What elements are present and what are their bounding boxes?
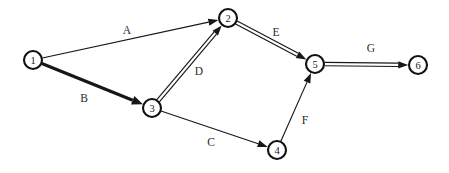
- edge-shaft: [281, 82, 307, 141]
- node-label: 4: [274, 145, 280, 156]
- node-5[interactable]: 5: [306, 55, 324, 73]
- edge-b: [42, 64, 143, 105]
- edge-label-f: F: [302, 114, 308, 126]
- arrowhead-icon: [131, 96, 143, 105]
- edge-label-g: G: [367, 42, 375, 54]
- arrowhead-icon: [304, 73, 311, 84]
- node-4[interactable]: 4: [268, 141, 286, 159]
- nodes-layer: 123456: [24, 9, 427, 159]
- node-label: 3: [149, 103, 154, 114]
- node-6[interactable]: 6: [409, 56, 427, 74]
- node-3[interactable]: 3: [143, 99, 161, 117]
- edge-rail: [325, 62, 399, 63]
- edge-f: [281, 73, 311, 141]
- edge-g: [324, 61, 408, 68]
- graph-canvas: 123456 ABCDEFG: [0, 0, 449, 173]
- edge-rail: [159, 34, 216, 102]
- edge-label-e: E: [272, 26, 279, 38]
- node-1[interactable]: 1: [24, 51, 42, 69]
- node-label: 2: [225, 13, 230, 24]
- arrowhead-icon: [257, 140, 268, 147]
- edge-label-b: B: [80, 92, 88, 104]
- node-2[interactable]: 2: [219, 9, 237, 27]
- edge-rail: [236, 24, 297, 56]
- network-diagram: 123456 ABCDEFG: [0, 0, 449, 173]
- edge-labels-layer: ABCDEFG: [80, 24, 375, 148]
- edge-e: [236, 21, 307, 59]
- edge-rail: [157, 32, 214, 100]
- arrowhead-icon: [398, 61, 408, 68]
- edge-rail: [324, 66, 398, 67]
- edge-rail: [237, 21, 298, 53]
- edge-label-a: A: [123, 24, 132, 36]
- node-label: 5: [312, 59, 317, 70]
- node-label: 6: [415, 60, 420, 71]
- edge-d: [157, 25, 222, 101]
- node-label: 1: [30, 55, 35, 66]
- arrowhead-icon: [208, 19, 219, 26]
- edges-layer: [42, 19, 408, 147]
- arrowhead-icon: [212, 25, 221, 35]
- edge-label-c: C: [207, 136, 215, 148]
- edge-label-d: D: [195, 65, 203, 77]
